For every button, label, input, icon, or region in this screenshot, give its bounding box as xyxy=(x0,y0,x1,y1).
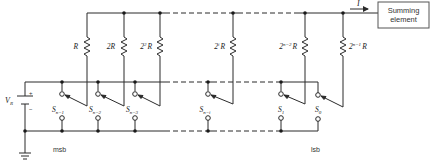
switch-label-s-n-i: Sn−i xyxy=(199,105,211,115)
reference-rail xyxy=(25,82,318,93)
ground-rail xyxy=(25,121,318,131)
resistor-label-2r: 2R xyxy=(107,42,116,51)
resistor-label-2-n-2-r: 2n−2R xyxy=(279,42,297,51)
switch-s-1 xyxy=(281,82,305,131)
ground-icon xyxy=(19,153,31,159)
summing-element-label-line1: Summing xyxy=(388,6,420,15)
switch-label-s-n-1: Sn−1 xyxy=(52,105,64,115)
resistor-label-2-n-1-r: 2n−1R xyxy=(349,42,367,51)
switch-s-n-i xyxy=(208,82,233,131)
resistor-label-2-squared-r: 22R xyxy=(140,42,152,51)
switch-s-0 xyxy=(321,96,343,107)
switch-s-n-3 xyxy=(135,82,160,131)
switch-label-s-0: S0 xyxy=(315,105,322,115)
switch-label-s-n-3: Sn−3 xyxy=(126,105,139,115)
switch-label-s-1: S1 xyxy=(278,105,284,115)
resistor-2r xyxy=(121,13,127,82)
switch-s-n-2 xyxy=(98,82,124,131)
lsb-label: lsb xyxy=(311,146,320,153)
resistor-r xyxy=(84,13,90,82)
msb-label: msb xyxy=(53,146,66,153)
resistor-2-squared-r xyxy=(157,13,163,82)
resistor-label-r: R xyxy=(72,42,78,51)
dac-circuit-diagram: Summing element I R 2R 22R 2iR 2n−2R 2n−… xyxy=(0,0,433,167)
switch-label-s-n-2: Sn−2 xyxy=(89,105,102,115)
resistor-2-n-2-r xyxy=(302,13,308,104)
source-label: VR xyxy=(5,96,13,106)
minus-sign: − xyxy=(29,106,33,112)
switch-s-n-1 xyxy=(62,82,87,131)
resistor-2-n-1-r xyxy=(340,13,346,107)
plus-sign: + xyxy=(29,90,33,96)
junction-dots xyxy=(23,11,345,133)
summing-element-label-line2: element xyxy=(390,15,418,24)
current-label: I xyxy=(356,0,360,8)
resistor-2-i-r xyxy=(230,13,236,104)
resistor-label-2-i-r: 2iR xyxy=(214,42,225,51)
